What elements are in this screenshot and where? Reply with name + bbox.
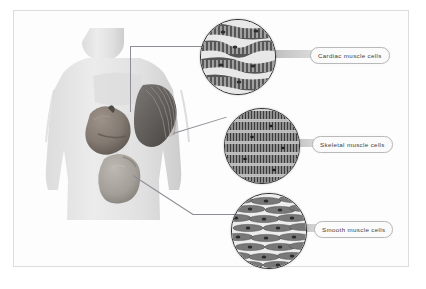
human-torso [30, 28, 205, 260]
leader-line-smooth-horizontal [193, 214, 239, 215]
muscle-tissue-figure: Cardiac muscle cells [0, 0, 426, 289]
label-smooth-text: Smooth muscle cells [322, 226, 385, 233]
label-smooth[interactable]: Smooth muscle cells [314, 221, 393, 238]
micrograph-skeletal[interactable] [224, 108, 300, 184]
label-skeletal[interactable]: Skeletal muscle cells [312, 136, 393, 153]
organ-stomach [98, 154, 140, 204]
micrograph-smooth[interactable] [231, 193, 307, 269]
micrograph-cardiac[interactable] [200, 19, 276, 95]
label-cardiac[interactable]: Cardiac muscle cells [310, 47, 390, 64]
leader-line-cardiac-vertical [130, 46, 131, 112]
label-skeletal-text: Skeletal muscle cells [320, 141, 385, 148]
leader-line-cardiac-horizontal [130, 46, 202, 47]
label-cardiac-text: Cardiac muscle cells [318, 52, 382, 59]
